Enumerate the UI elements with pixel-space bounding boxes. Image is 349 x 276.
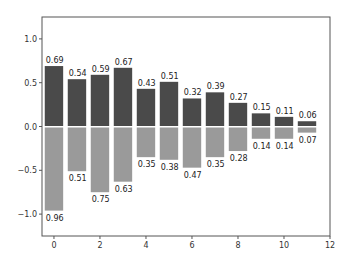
x-tick-label: 10 (279, 241, 289, 250)
bar-value-label: 0.69 (46, 56, 64, 65)
bar-chart: 0.690.540.590.670.430.510.320.390.270.15… (0, 0, 349, 276)
negative-bars (45, 128, 316, 211)
bar-value-label: 0.47 (184, 171, 202, 180)
bar-value-label: 0.39 (207, 82, 225, 91)
axes-frame (42, 17, 330, 236)
negative-bar-labels: 0.960.510.750.630.350.380.470.350.280.14… (46, 136, 317, 223)
bar-value-label: 0.11 (276, 107, 294, 116)
bar-negative (68, 128, 86, 172)
bar-positive (45, 66, 63, 126)
bar-positive (252, 113, 270, 126)
bar-negative (114, 128, 132, 182)
bar-negative (252, 128, 270, 139)
bar-value-label: 0.14 (276, 142, 294, 151)
x-tick-label: 4 (143, 241, 148, 250)
bar-value-label: 0.06 (299, 111, 317, 120)
bar-positive (183, 98, 201, 126)
bar-value-label: 0.96 (46, 214, 64, 223)
bar-value-label: 0.32 (184, 88, 202, 97)
y-tick-label: −0.5 (18, 166, 37, 175)
bar-value-label: 0.35 (138, 160, 156, 169)
bar-negative (206, 128, 224, 158)
bar-negative (275, 128, 293, 139)
bar-value-label: 0.75 (92, 195, 110, 204)
positive-bar-labels: 0.690.540.590.670.430.510.320.390.270.15… (46, 56, 317, 120)
bar-value-label: 0.15 (253, 103, 271, 112)
bar-negative (137, 128, 155, 158)
bar-value-label: 0.14 (253, 142, 271, 151)
bar-positive (114, 68, 132, 126)
bar-value-label: 0.38 (161, 163, 179, 172)
bar-positive (206, 92, 224, 126)
bar-positive (160, 82, 178, 126)
bar-value-label: 0.51 (161, 72, 179, 81)
bar-value-label: 0.67 (115, 58, 133, 67)
bar-positive (275, 117, 293, 126)
bar-value-label: 0.54 (69, 69, 87, 78)
bar-negative (183, 128, 201, 168)
y-tick-label: 0.5 (24, 79, 37, 88)
x-tick-label: 6 (189, 241, 194, 250)
bar-positive (137, 89, 155, 126)
bar-value-label: 0.63 (115, 185, 133, 194)
x-tick-label: 8 (235, 241, 240, 250)
bar-value-label: 0.59 (92, 65, 110, 74)
bar-value-label: 0.51 (69, 174, 87, 183)
bar-negative (160, 128, 178, 160)
y-tick-label: −1.0 (18, 210, 37, 219)
bar-value-label: 0.07 (299, 136, 317, 145)
y-tick-label: 0.0 (24, 123, 37, 132)
y-axis-ticks: 1.00.50.0−0.5−1.0 (18, 35, 42, 219)
bar-positive (91, 75, 109, 126)
x-axis-ticks: 024681012 (51, 236, 335, 250)
y-tick-label: 1.0 (24, 35, 37, 44)
bar-negative (91, 128, 109, 193)
bar-value-label: 0.27 (230, 93, 248, 102)
bar-value-label: 0.28 (230, 154, 248, 163)
x-tick-label: 12 (325, 241, 335, 250)
bar-negative (45, 128, 63, 211)
x-tick-label: 0 (51, 241, 56, 250)
bar-negative (298, 128, 316, 133)
bar-positive (298, 121, 316, 126)
bar-positive (229, 103, 247, 126)
bar-value-label: 0.35 (207, 160, 225, 169)
bar-positive (68, 79, 86, 126)
bar-value-label: 0.43 (138, 79, 156, 88)
x-tick-label: 2 (97, 241, 102, 250)
bar-negative (229, 128, 247, 152)
